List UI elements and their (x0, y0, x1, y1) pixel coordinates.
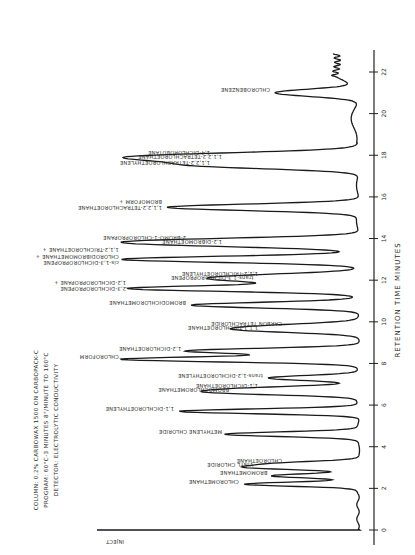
peak-label: 2,3-DICHLOROPROPENE (60, 286, 126, 292)
peak-label: trans-1,2-DICHLOROETHYLENE (178, 373, 263, 379)
signal-line (97, 54, 360, 531)
tick-label: 4 (380, 445, 387, 449)
tick-label: 18 (380, 151, 387, 159)
tick-label: 2 (380, 486, 387, 490)
conditions-block: COLUMN: 0.2% CARBOWAX 1500 ON CARBOPACK-… (33, 350, 59, 511)
tick-label: 8 (380, 361, 387, 365)
peak-label: 1,1,2,2-TETRACHLOROETHANE (78, 205, 162, 211)
peak-label: cis-1,3-DICHLOROPROPENE (43, 260, 119, 266)
peak-label: CHLOROBENZENE (221, 87, 270, 93)
peak-label: CHLORODIBROMOMETHANE + (36, 254, 119, 260)
tick-label: 10 (380, 318, 387, 326)
peak-label: 1,1,2-TRICHLOROETHYLENE (182, 271, 258, 277)
tick-label: 14 (380, 235, 387, 243)
chromatogram-chart: COLUMN: 0.2% CARBOWAX 1500 ON CARBOPACK-… (0, 0, 415, 555)
peak-label: CHLOROETHANE (237, 458, 282, 464)
peak-label: CHLOROFORM (80, 354, 119, 360)
tick-label: 16 (380, 193, 387, 201)
time-axis: 0246810121416182022RETENTION TIME MINUTE… (369, 50, 402, 545)
peak-label: 2-BROMO-1-CHLOROPROPANE (103, 235, 186, 241)
chromatogram-figure: COLUMN: 0.2% CARBOWAX 1500 ON CARBOPACK-… (0, 0, 415, 555)
tick-label: 22 (380, 68, 387, 76)
axis-title: RETENTION TIME MINUTES (394, 242, 402, 357)
peak-label: 1,2-DICHLOROETHANE (119, 346, 181, 352)
tick-label: 0 (380, 528, 387, 532)
peak-label: CARBON TETRACHLORIDE (211, 321, 282, 327)
peak-label: BROMODICHLOROMETHANE (109, 300, 186, 306)
peak-label: 1,1,2-TRICHLOROETHANE + (42, 247, 119, 253)
peak-label: 1,1-DICHLOROETHANE (196, 383, 258, 389)
peak-label: CHLOROMETHANE (189, 479, 239, 485)
peak-labels: CHLOROMETHANEBROMOMETHANEVINYL CHLORIDEC… (36, 87, 282, 484)
inject-label: INJECT (105, 538, 124, 545)
peak-label: 1,2-DICHLOROPROPANE + (54, 280, 126, 286)
peak-label: BROMOMETHANE (220, 470, 268, 476)
tick-label: 12 (380, 276, 387, 284)
peak-label: METHYLENE CHLORIDE (159, 429, 222, 435)
peak-label: 1,1-DICHLOROETHYLENE (106, 406, 175, 412)
tick-label: 6 (380, 403, 387, 407)
tick-label: 20 (380, 110, 387, 118)
condition-line: COLUMN: 0.2% CARBOWAX 1500 ON CARBOPACK-… (33, 350, 39, 511)
condition-line: DETECTOR: ELECTROLYTIC CONDUCTIVITY (53, 364, 59, 497)
peak-label: BROMOFORM + (119, 199, 162, 205)
condition-line: PROGRAM: 60°C-3 MINUTES 8°/MINUTE TO 160… (43, 352, 49, 508)
peak-label: 1,4-DICHLOROBUTANE (148, 150, 210, 156)
peak-label: 1,1,2,2-TETRACHLOROETHYLENE (120, 160, 210, 166)
